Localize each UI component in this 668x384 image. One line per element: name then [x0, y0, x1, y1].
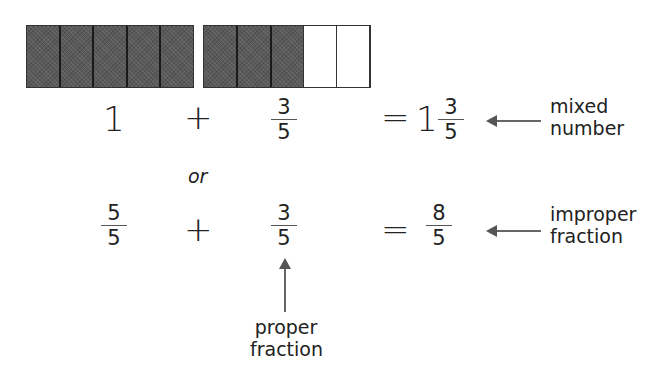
whole-bar: [26, 25, 194, 88]
label-line: fraction: [250, 338, 322, 360]
label-line: number: [550, 117, 624, 139]
label-line: proper: [250, 316, 322, 338]
arrow-left-icon: [496, 230, 541, 232]
bar-cell-shaded: [128, 26, 162, 87]
label-line: improper: [550, 203, 636, 225]
mixed-number-label: mixed number: [550, 95, 624, 139]
bar-cell-shaded: [161, 26, 193, 87]
label-line: fraction: [550, 225, 636, 247]
row2-term1-fraction: 5 5: [101, 202, 127, 249]
bar-cell-empty: [337, 26, 370, 87]
row1-equals: =: [381, 100, 410, 134]
denominator: 5: [105, 227, 122, 249]
row2-result-fraction: 8 5: [426, 202, 452, 249]
row2-equals: =: [381, 212, 410, 246]
bar-cell-shaded: [238, 26, 272, 87]
row2-term2-fraction: 3 5: [271, 202, 297, 249]
or-separator: or: [188, 165, 207, 187]
arrow-left-icon: [496, 120, 541, 122]
row1-result-fraction: 3 5: [438, 96, 464, 143]
denominator: 5: [442, 121, 459, 143]
row1-term1: 1: [103, 102, 125, 136]
denominator: 5: [275, 227, 292, 249]
bar-cell-shaded: [94, 26, 128, 87]
denominator: 5: [275, 121, 292, 143]
row1-result-whole: 1: [416, 102, 438, 136]
denominator: 5: [430, 227, 447, 249]
numerator: 3: [275, 96, 292, 118]
fraction-bar: [203, 25, 371, 88]
numerator: 8: [430, 202, 447, 224]
label-line: mixed: [550, 95, 624, 117]
bar-cell-empty: [304, 26, 337, 87]
row2-plus: +: [184, 212, 213, 246]
numerator: 3: [442, 96, 459, 118]
bar-cell-shaded: [272, 26, 305, 87]
numerator: 3: [275, 202, 292, 224]
arrow-up-icon: [284, 268, 286, 312]
bar-cell-shaded: [204, 26, 238, 87]
bar-cell-shaded: [27, 26, 61, 87]
row1-term2-fraction: 3 5: [271, 96, 297, 143]
bar-cell-shaded: [61, 26, 95, 87]
row1-plus: +: [184, 100, 213, 134]
numerator: 5: [105, 202, 122, 224]
improper-fraction-label: improper fraction: [550, 203, 636, 247]
proper-fraction-label: proper fraction: [250, 316, 322, 360]
